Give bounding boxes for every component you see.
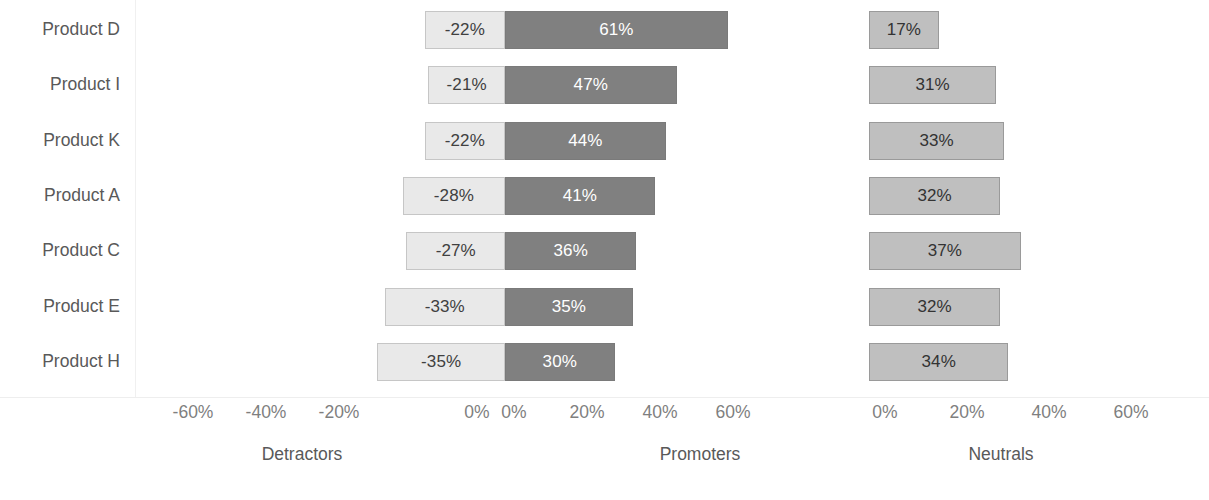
bar-promoters[interactable]: 61% (505, 11, 728, 49)
group-titles: DetractorsPromotersNeutrals (0, 446, 1209, 476)
bar-neutrals[interactable]: 37% (869, 232, 1021, 270)
bar-detractors[interactable]: -28% (403, 177, 505, 215)
category-label: Product C (0, 242, 120, 260)
bar-value-label: 44% (568, 131, 602, 151)
bar-detractors[interactable]: -27% (406, 232, 505, 270)
bar-promoters[interactable]: 36% (505, 232, 636, 270)
group-title-promoters: Promoters (660, 446, 741, 464)
axis-tick-label: -40% (246, 404, 287, 422)
axis-tick-label: 40% (642, 404, 677, 422)
category-label: Product H (0, 353, 120, 371)
axis-tick-label: 20% (569, 404, 604, 422)
bar-value-label: -28% (434, 186, 474, 206)
bar-promoters[interactable]: 47% (505, 66, 677, 104)
category-label: Product D (0, 21, 120, 39)
group-title-detractors: Detractors (262, 446, 343, 464)
bar-detractors[interactable]: -22% (425, 122, 505, 160)
bar-value-label: 17% (887, 20, 921, 40)
bar-detractors[interactable]: -33% (385, 288, 505, 326)
bar-value-label: 30% (543, 352, 577, 372)
bar-value-label: 37% (928, 241, 962, 261)
bar-detractors[interactable]: -22% (425, 11, 505, 49)
bar-neutrals[interactable]: 34% (869, 343, 1008, 381)
category-axis: Product DProduct IProduct KProduct AProd… (0, 0, 131, 397)
bar-value-label: 34% (922, 352, 956, 372)
bar-neutrals[interactable]: 31% (869, 66, 996, 104)
bar-value-label: -22% (445, 20, 485, 40)
bar-value-label: -27% (436, 241, 476, 261)
bar-promoters[interactable]: 41% (505, 177, 655, 215)
bar-value-label: -22% (445, 131, 485, 151)
bar-value-label: 36% (554, 241, 588, 261)
bar-value-label: 32% (917, 186, 951, 206)
bar-neutrals[interactable]: 32% (869, 288, 1000, 326)
bar-value-label: -33% (425, 297, 465, 317)
bar-value-label: 32% (917, 297, 951, 317)
category-label: Product I (0, 76, 120, 94)
axis-tick-label: -60% (173, 404, 214, 422)
value-axis-ticks: -60%-40%-20%0%0%20%40%60%0%20%40%60% (0, 404, 1209, 434)
category-label: Product E (0, 298, 120, 316)
axis-tick-label: 60% (715, 404, 750, 422)
bar-value-label: -21% (447, 75, 487, 95)
bar-neutrals[interactable]: 32% (869, 177, 1000, 215)
axis-tick-label: 0% (464, 404, 489, 422)
bar-value-label: 33% (919, 131, 953, 151)
category-label: Product A (0, 187, 120, 205)
axis-tick-label: 0% (872, 404, 897, 422)
bar-detractors[interactable]: -35% (377, 343, 505, 381)
bar-promoters[interactable]: 44% (505, 122, 666, 160)
axis-tick-label: 0% (501, 404, 526, 422)
plot-bottom-axis (0, 397, 1209, 398)
bar-neutrals[interactable]: 33% (869, 122, 1004, 160)
nps-bar-chart: Product DProduct IProduct KProduct AProd… (0, 0, 1209, 500)
bar-detractors[interactable]: -21% (428, 66, 505, 104)
axis-tick-label: -20% (319, 404, 360, 422)
bar-promoters[interactable]: 35% (505, 288, 633, 326)
axis-tick-label: 60% (1113, 404, 1148, 422)
bar-value-label: 47% (574, 75, 608, 95)
axis-tick-label: 20% (949, 404, 984, 422)
group-title-neutrals: Neutrals (968, 446, 1033, 464)
bar-value-label: 61% (599, 20, 633, 40)
bar-promoters[interactable]: 30% (505, 343, 615, 381)
bar-value-label: 41% (563, 186, 597, 206)
axis-tick-label: 40% (1031, 404, 1066, 422)
detractors-promoters-panel: -22%61%-21%47%-22%44%-28%41%-27%36%-33%3… (136, 0, 866, 397)
bar-value-label: 31% (915, 75, 949, 95)
bar-value-label: 35% (552, 297, 586, 317)
category-label: Product K (0, 132, 120, 150)
bar-neutrals[interactable]: 17% (869, 11, 939, 49)
bar-value-label: -35% (421, 352, 461, 372)
neutrals-panel: 17%31%33%32%37%32%34% (866, 0, 1209, 397)
